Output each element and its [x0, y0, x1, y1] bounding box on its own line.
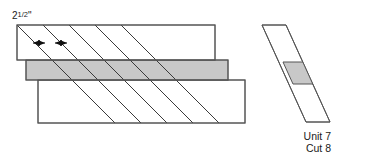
cut-unit: Unit 7 Cut 8	[262, 25, 331, 154]
strip-assembly: 21/2"	[12, 10, 245, 123]
middle-gray-strip	[26, 60, 228, 80]
dimension-label: 21/2"	[12, 10, 32, 21]
diagram-canvas: 21/2" Unit 7 Cut 8	[0, 0, 367, 159]
dimension-fraction: 1/2	[18, 10, 28, 19]
cut-unit-label-line2: Cut 8	[306, 142, 331, 154]
bottom-white-strip	[38, 80, 245, 123]
diagram-illustration: 21/2" Unit 7 Cut 8	[0, 0, 367, 159]
dimension-unit-mark: "	[28, 10, 32, 21]
cut-unit-label-line1: Unit 7	[304, 130, 332, 142]
